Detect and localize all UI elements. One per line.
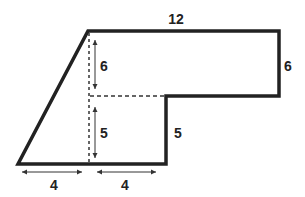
label-step-height: 5 — [174, 125, 182, 141]
shape-outline — [18, 31, 279, 164]
label-lower-inner-height: 5 — [100, 125, 108, 141]
label-upper-inner-height: 6 — [100, 58, 108, 74]
composite-shape-diagram: 12 6 6 5 5 4 4 — [0, 0, 305, 197]
label-bottom-right-width: 4 — [121, 177, 129, 193]
label-right-height: 6 — [284, 58, 292, 74]
label-top-width: 12 — [168, 11, 184, 27]
label-bottom-left-width: 4 — [50, 177, 58, 193]
